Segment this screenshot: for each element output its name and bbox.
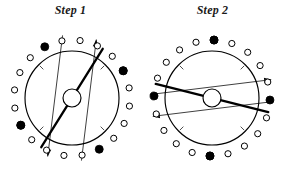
perimeter-marker-hollow-13 — [189, 149, 195, 155]
perimeter-marker-filled-17 — [41, 43, 49, 51]
panel-title-step-2: Step 2 — [142, 3, 283, 17]
perimeter-marker-hollow-15 — [17, 69, 23, 75]
perimeter-marker-hollow-5 — [121, 120, 127, 126]
perimeter-marker-hollow-11 — [29, 137, 35, 143]
circle-tick-mark-2 — [40, 66, 44, 70]
circle-tick-mark-0 — [40, 127, 44, 131]
perimeter-marker-hollow-8 — [79, 152, 85, 158]
perimeter-marker-hollow-16 — [153, 111, 159, 117]
panel-title-step-1: Step 1 — [0, 3, 141, 17]
panel-step-1: Step 1 — [0, 0, 141, 177]
perimeter-marker-hollow-1 — [109, 53, 115, 59]
perimeter-marker-hollow-13 — [12, 105, 18, 111]
perimeter-marker-filled-7 — [95, 145, 103, 153]
circle-tick-mark-0 — [180, 127, 184, 131]
perimeter-marker-hollow-10 — [241, 143, 247, 149]
perimeter-marker-hollow-6 — [265, 79, 271, 85]
perimeter-marker-hollow-18 — [154, 75, 160, 81]
center-hub-circle — [63, 89, 81, 107]
perimeter-marker-filled-2 — [119, 67, 127, 75]
perimeter-marker-hollow-6 — [111, 135, 117, 141]
perimeter-marker-filled-17 — [150, 92, 158, 100]
perimeter-marker-hollow-1 — [193, 39, 199, 45]
center-hub-circle — [203, 89, 221, 107]
circle-tick-mark-2 — [180, 66, 184, 70]
perimeter-marker-hollow-3 — [126, 85, 132, 91]
perimeter-marker-hollow-18 — [59, 38, 65, 44]
panel-canvas-step-1 — [0, 20, 141, 177]
circle-tick-mark-3 — [101, 66, 105, 70]
perimeter-marker-hollow-11 — [225, 151, 231, 157]
perimeter-marker-hollow-0 — [94, 43, 100, 49]
perimeter-marker-hollow-5 — [257, 62, 263, 68]
perimeter-marker-hollow-9 — [61, 152, 67, 158]
perimeter-marker-hollow-4 — [126, 103, 132, 109]
perimeter-marker-hollow-14 — [173, 141, 179, 147]
circle-tick-mark-1 — [101, 127, 105, 131]
perimeter-marker-hollow-3 — [229, 40, 235, 46]
perimeter-marker-hollow-19 — [163, 59, 169, 65]
perimeter-marker-hollow-8 — [263, 115, 269, 121]
perimeter-marker-hollow-9 — [255, 131, 261, 137]
perimeter-marker-filled-2 — [210, 36, 218, 44]
circle-tick-mark-1 — [241, 127, 245, 131]
perimeter-marker-hollow-15 — [161, 127, 167, 133]
perimeter-marker-hollow-14 — [11, 87, 17, 93]
circle-tick-mark-3 — [241, 66, 245, 70]
perimeter-marker-hollow-10 — [43, 147, 49, 153]
perimeter-marker-filled-12 — [17, 121, 25, 129]
perimeter-marker-filled-12 — [206, 152, 214, 160]
panel-canvas-step-2 — [142, 20, 283, 177]
perimeter-marker-hollow-16 — [27, 55, 33, 61]
perimeter-marker-filled-7 — [266, 96, 274, 104]
perimeter-marker-hollow-4 — [245, 49, 251, 55]
perimeter-marker-hollow-19 — [77, 37, 83, 43]
perimeter-marker-hollow-0 — [176, 47, 182, 53]
rotation-diagram-figure: Step 1 Step 2 — [0, 0, 283, 177]
panel-step-2: Step 2 — [142, 0, 283, 177]
